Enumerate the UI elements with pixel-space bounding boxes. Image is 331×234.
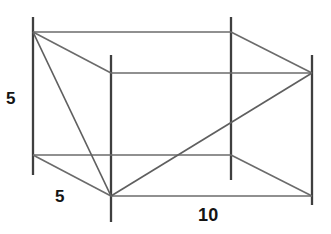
- diagram-canvas: 5 5 10: [0, 0, 331, 234]
- edge-depth-top-right: [231, 32, 312, 73]
- dimension-label-depth: 5: [55, 188, 65, 205]
- diagonal-left-face: [33, 32, 111, 196]
- edge-depth-top-left: [33, 32, 111, 73]
- diagonal-front-face: [111, 73, 312, 196]
- edge-depth-bottom-right: [231, 155, 312, 196]
- edge-depth-bottom-left: [33, 155, 111, 196]
- dimension-label-height: 5: [6, 90, 16, 107]
- dimension-label-width: 10: [198, 206, 218, 224]
- box-figure: [0, 0, 331, 234]
